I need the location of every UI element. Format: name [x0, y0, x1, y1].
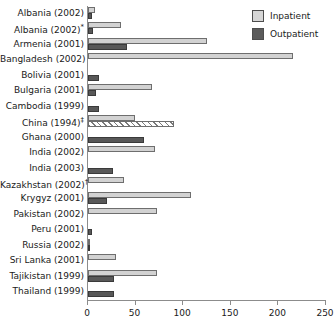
bar-outpatient [88, 28, 93, 34]
chart-row: India (2003) [0, 161, 335, 176]
bar-inpatient [88, 208, 157, 214]
bar-outpatient [88, 75, 99, 81]
x-tick-label-50: 50 [129, 308, 140, 318]
chart-row: India (2002) [0, 145, 335, 160]
bar-chart: Inpatient Outpatient Albania (2002)Alban… [0, 0, 335, 334]
bar-outpatient [88, 198, 107, 204]
chart-row: Tajikistan (1999) [0, 269, 335, 284]
category-label: Peru (2001) [0, 224, 84, 234]
x-tick-150 [230, 300, 231, 305]
category-label: Kazakhstan (2002)† [0, 178, 84, 190]
category-label: Thailand (1999) [0, 286, 84, 296]
chart-row: Peru (2001) [0, 222, 335, 237]
x-tick-label-150: 150 [221, 308, 238, 318]
chart-row: Sri Lanka (2001) [0, 253, 335, 268]
bar-outpatient [88, 137, 144, 143]
bar-outpatient [88, 291, 114, 297]
bar-inpatient [88, 146, 155, 152]
chart-row: Thailand (1999) [0, 284, 335, 299]
bar-inpatient [88, 177, 124, 183]
bar-outpatient [88, 276, 114, 282]
chart-row: Ghana (2000) [0, 130, 335, 145]
chart-row: Bulgaria (2001) [0, 83, 335, 98]
category-label: Ghana (2000) [0, 132, 84, 142]
x-axis-line [87, 300, 325, 301]
bar-outpatient [88, 229, 92, 235]
category-label: Bulgaria (2001) [0, 85, 84, 95]
x-tick-200 [277, 300, 278, 305]
chart-row: Pakistan (2002) [0, 207, 335, 222]
chart-row: Albania (2002) [0, 6, 335, 21]
bar-outpatient [88, 168, 113, 174]
bar-outpatient [88, 90, 96, 96]
chart-row: Cambodia (1999) [0, 99, 335, 114]
chart-row: Bolivia (2001) [0, 68, 335, 83]
x-tick-100 [182, 300, 183, 305]
chart-row: Bangladesh (2002) [0, 52, 335, 67]
bar-inpatient [88, 53, 293, 59]
x-tick-50 [135, 300, 136, 305]
x-tick-label-0: 0 [84, 308, 90, 318]
bar-outpatient-hatched [88, 121, 174, 127]
chart-row: Albania (2002)* [0, 21, 335, 36]
chart-row: Kazakhstan (2002)† [0, 176, 335, 191]
bar-inpatient [88, 84, 152, 90]
category-label: Bangladesh (2002) [0, 54, 84, 64]
category-label: China (1994)‡ [0, 116, 84, 128]
category-label: Albania (2002)* [0, 23, 84, 35]
category-label: Cambodia (1999) [0, 101, 84, 111]
bar-inpatient [88, 254, 116, 260]
chart-row: Russia (2002) [0, 238, 335, 253]
category-label: Sri Lanka (2001) [0, 255, 84, 265]
bar-outpatient [88, 44, 127, 50]
x-tick-label-100: 100 [174, 308, 191, 318]
x-tick-label-200: 200 [269, 308, 286, 318]
bar-outpatient [88, 106, 99, 112]
x-tick-label-250: 250 [316, 308, 333, 318]
category-label: Pakistan (2002) [0, 209, 84, 219]
chart-row: Armenia (2001) [0, 37, 335, 52]
category-label: Armenia (2001) [0, 39, 84, 49]
chart-row: China (1994)‡ [0, 114, 335, 129]
category-label: India (2002) [0, 147, 84, 157]
bar-inpatient [88, 22, 121, 28]
category-label: Tajikistan (1999) [0, 271, 84, 281]
category-label: Bolivia (2001) [0, 70, 84, 80]
category-label: Russia (2002) [0, 240, 84, 250]
category-label: Krygyz (2001) [0, 193, 84, 203]
bar-outpatient [88, 13, 92, 19]
x-tick-250 [325, 300, 326, 305]
x-tick-0 [87, 300, 88, 305]
chart-row: Krygyz (2001) [0, 191, 335, 206]
category-label: India (2003) [0, 163, 84, 173]
bar-outpatient [88, 245, 90, 251]
category-label: Albania (2002) [0, 8, 84, 18]
